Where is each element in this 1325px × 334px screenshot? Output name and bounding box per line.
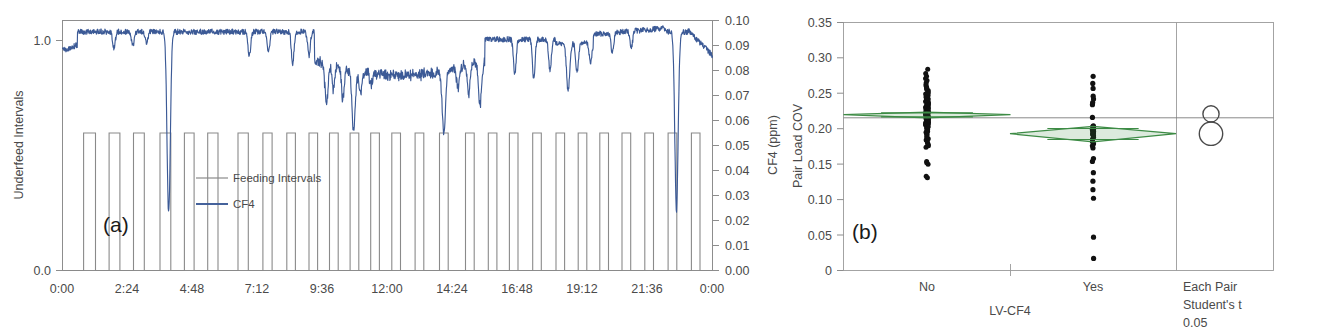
axis-a-x-tick-6: 14:24	[436, 282, 467, 296]
group-no	[844, 67, 1011, 180]
category-label-no: No	[919, 280, 935, 294]
legend-label-feeding-intervals: Feeding Intervals	[233, 172, 321, 184]
axis-a-right-tick-8: 0.08	[725, 64, 749, 78]
axis-b-left-title: Pair Load COV	[791, 103, 805, 188]
axis-a-left: 1.0 0.0 Underfeed Intervals	[12, 34, 63, 278]
chart-panel-a: 1.0 0.0 Underfeed Intervals 0.00 0.01 0	[0, 0, 790, 334]
data-point	[923, 71, 928, 76]
axis-a-right-tick-3: 0.03	[725, 189, 749, 203]
data-point	[925, 67, 930, 72]
data-point	[1090, 179, 1095, 184]
axis-b-tick-4: 0.20	[808, 122, 832, 136]
figure-container: 1.0 0.0 Underfeed Intervals 0.00 0.01 0	[0, 0, 1325, 334]
data-point	[1091, 235, 1096, 240]
comparison-label-line-3: 0.05	[1183, 316, 1207, 330]
panel-a-tag: (a)	[103, 213, 129, 236]
axis-b-tick-6: 0.30	[808, 51, 832, 65]
chart-b-svg: 0 0.05 0.10 0.15 0.20 0.25 0.30 0.35 Pai…	[790, 0, 1325, 334]
data-point	[1090, 81, 1095, 86]
chart-a-svg: 1.0 0.0 Underfeed Intervals 0.00 0.01 0	[0, 0, 790, 334]
data-point	[924, 174, 929, 179]
panel-b-tag: (b)	[852, 220, 878, 243]
data-point	[1090, 187, 1095, 192]
axis-a-x-tick-7: 16:48	[501, 282, 532, 296]
axis-a-right-tick-0: 0.00	[725, 264, 749, 278]
axis-a-x-tick-2: 4:48	[180, 282, 204, 296]
axis-a-right-tick-10: 0.10	[725, 14, 749, 28]
comparison-label-line-1: Each Pair	[1183, 280, 1237, 294]
comparison-circle-no[interactable]	[1203, 106, 1219, 122]
data-point	[1091, 196, 1096, 201]
data-point	[1090, 115, 1095, 120]
axis-b-tick-1: 0.05	[808, 229, 832, 243]
data-point	[1091, 94, 1096, 99]
data-point	[1091, 156, 1096, 161]
axis-b-tick-2: 0.10	[808, 193, 832, 207]
comparison-circle-yes[interactable]	[1199, 122, 1222, 145]
axis-b-left: 0 0.05 0.10 0.15 0.20 0.25 0.30 0.35 Pai…	[791, 16, 844, 278]
axis-b-tick-0: 0	[825, 264, 832, 278]
data-point	[1091, 170, 1096, 175]
axis-a-x-tick-3: 7:12	[245, 282, 269, 296]
axis-a-x-tick-10: 0:00	[700, 282, 724, 296]
data-point	[1091, 256, 1096, 261]
axis-a-x-tick-5: 12:00	[371, 282, 402, 296]
chart-panel-b: 0 0.05 0.10 0.15 0.20 0.25 0.30 0.35 Pai…	[790, 0, 1325, 334]
axis-a-x-tick-1: 2:24	[115, 282, 139, 296]
axis-b-tick-7: 0.35	[808, 16, 832, 30]
category-label-yes: Yes	[1083, 280, 1103, 294]
axis-a-x-tick-4: 9:36	[310, 282, 334, 296]
axis-a-right-tick-2: 0.02	[725, 214, 749, 228]
axis-a-left-title: Underfeed Intervals	[12, 90, 26, 199]
plot-b-frame	[844, 23, 1274, 271]
axis-a-right-tick-9: 0.09	[725, 39, 749, 53]
axis-a-left-tick-1: 1.0	[34, 34, 51, 48]
group-yes	[1010, 74, 1176, 261]
axis-b-tick-3: 0.15	[808, 158, 832, 172]
chart-a-legend: Feeding Intervals CF4	[196, 172, 321, 210]
axis-a-x-tick-8: 19:12	[566, 282, 597, 296]
legend-label-cf4: CF4	[233, 198, 255, 210]
axis-a-right-tick-7: 0.07	[725, 89, 749, 103]
axis-a-left-tick-0: 0.0	[34, 264, 51, 278]
axis-b-tick-5: 0.25	[808, 87, 832, 101]
data-point	[924, 159, 929, 164]
data-point	[1091, 74, 1096, 79]
axis-a-right-tick-1: 0.01	[725, 239, 749, 253]
axis-a-right-tick-6: 0.06	[725, 114, 749, 128]
axis-a-x-tick-9: 21:36	[631, 282, 662, 296]
axis-a-x-tick-0: 0:00	[50, 282, 74, 296]
axis-a-right: 0.00 0.01 0.02 0.03 0.04 0.05 0.06 0.07 …	[713, 14, 781, 278]
series-feeding-intervals	[63, 133, 713, 271]
comparison-label-line-2: Student's t	[1183, 298, 1242, 312]
axis-a-right-tick-4: 0.04	[725, 164, 749, 178]
comparison-circles-group	[1199, 106, 1222, 146]
axis-a-bottom: 0:00 2:24 4:48 7:12 9:36 12:00 14:24 16:…	[50, 282, 724, 296]
axis-a-right-tick-5: 0.05	[725, 139, 749, 153]
axis-a-right-title: CF4 (ppm)	[766, 115, 780, 175]
data-point	[1090, 86, 1095, 91]
axis-b-x-title: LV-CF4	[989, 304, 1030, 318]
